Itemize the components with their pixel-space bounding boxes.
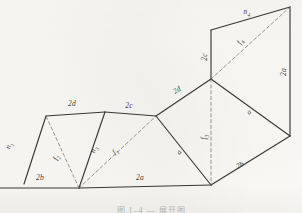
dashed-fold-group: [46, 7, 290, 188]
edge-2d-diagonal-up: [156, 79, 211, 116]
label-n3-subscript: 3: [94, 146, 101, 151]
label-f3: f3: [200, 134, 210, 139]
edge-bottom-2a: [79, 185, 211, 188]
label-2c2: 2c: [201, 53, 209, 60]
label-n4-subscript: 4: [248, 12, 251, 18]
solid-edge-group: [0, 7, 290, 188]
edge-top-2c: [105, 112, 156, 116]
fold-f2: [46, 116, 79, 188]
edge-right-lower: [211, 136, 290, 185]
label-2a2: 2a: [280, 68, 288, 76]
label-n1-subscript: 1: [9, 142, 16, 147]
edge-top-left-2d: [46, 112, 105, 116]
edge-n4-top: [211, 7, 290, 30]
label-2c: 2c: [125, 102, 132, 110]
figure-canvas: n12d2c2b2af2n3f12d2cn4f42af3aa2b 图 1–4 —…: [0, 0, 302, 213]
edge-a-interior-right: [211, 79, 290, 136]
edge-a-interior-left: [156, 116, 211, 185]
label-2d: 2d: [68, 100, 76, 108]
label-2a: 2a: [136, 174, 144, 182]
label-f3-subscript: 3: [204, 134, 210, 137]
figure-linework: [0, 0, 302, 213]
label-2b: 2b: [36, 174, 44, 182]
label-n4: n4: [244, 8, 251, 18]
figure-caption: 图 1–4 — 展开图: [0, 204, 302, 213]
